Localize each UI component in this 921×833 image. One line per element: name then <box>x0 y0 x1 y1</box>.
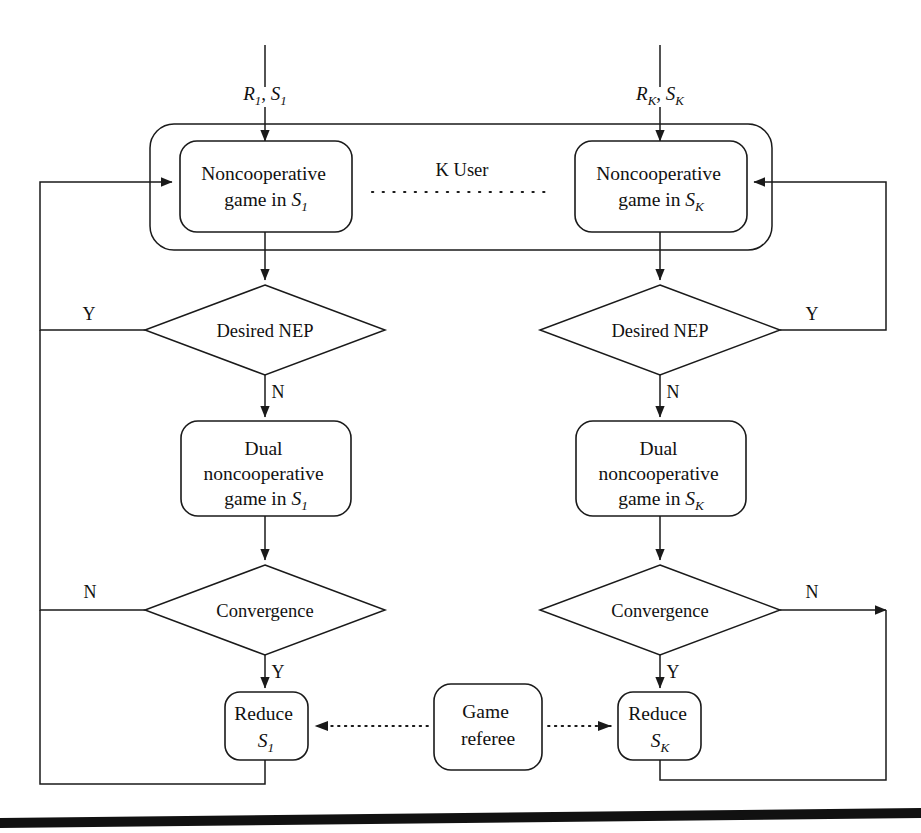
edge-label-nep-no-user-k: N <box>667 382 680 402</box>
edge-nep-yes-feedback-user-k <box>754 182 886 330</box>
label-desired-nep-user-1: Desired NEP <box>216 321 313 341</box>
edge-convergence-no-feedback-user-1 <box>40 330 145 610</box>
flowchart-svg: R1, S1 RK, SK K User Noncooperative game… <box>0 0 921 833</box>
node-noncooperative-game-user-1[interactable] <box>180 141 352 232</box>
node-game-referee[interactable] <box>434 684 542 770</box>
edge-label-convergence-no-user-k: N <box>806 582 819 602</box>
k-user-label: K User <box>436 160 489 180</box>
input-label-user-k: RK, SK <box>635 83 685 108</box>
edge-label-nep-no-user-1: N <box>272 382 285 402</box>
node-noncooperative-game-user-k[interactable] <box>575 141 747 232</box>
label-convergence-user-1: Convergence <box>216 601 313 621</box>
edge-nep-yes-feedback-user-1 <box>40 182 172 330</box>
bottom-rule <box>0 808 921 828</box>
figure-canvas: R1, S1 RK, SK K User Noncooperative game… <box>0 0 921 833</box>
label-desired-nep-user-k: Desired NEP <box>611 321 708 341</box>
label-convergence-user-k: Convergence <box>611 601 708 621</box>
input-label-user-1: R1, S1 <box>242 83 287 108</box>
edge-label-nep-yes-user-k: Y <box>806 304 819 324</box>
edge-label-convergence-no-user-1: N <box>84 582 97 602</box>
edge-label-convergence-yes-user-k: Y <box>667 662 680 682</box>
edge-label-nep-yes-user-1: Y <box>83 304 96 324</box>
edge-label-convergence-yes-user-1: Y <box>272 662 285 682</box>
